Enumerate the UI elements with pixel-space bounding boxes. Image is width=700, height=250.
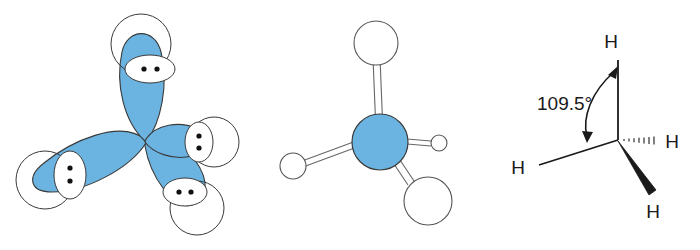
hydrogen-sphere-left xyxy=(280,153,306,179)
panel-ball-and-stick xyxy=(240,0,490,250)
electron-dot xyxy=(196,145,201,150)
electron-dot xyxy=(154,66,159,71)
hydrogen-sphere-bottom xyxy=(404,177,452,225)
electron-dot xyxy=(67,165,72,170)
carbon-sphere xyxy=(352,114,408,170)
hydrogen-sphere-lower-right-group xyxy=(163,178,224,235)
hydrogen-label-bottom: H xyxy=(646,201,660,222)
electron-pair-region-lower-right xyxy=(163,178,207,206)
panel-orbital-overlap xyxy=(0,0,240,250)
hydrogen-sphere-left-group xyxy=(16,151,86,209)
electron-pair-region-right xyxy=(185,122,213,162)
hydrogen-label-right: H xyxy=(665,131,679,152)
ball-and-stick-model xyxy=(240,0,490,250)
electron-dot xyxy=(67,178,72,183)
wedge-dash-structure: 109.5° H H H H xyxy=(490,0,700,250)
methane-bonding-figure: 109.5° H H H H xyxy=(0,0,700,250)
bond-wedge xyxy=(618,141,656,195)
arrow-head-bottom xyxy=(582,131,593,143)
electron-dot xyxy=(141,66,146,71)
electron-dot xyxy=(176,189,181,194)
electron-pair-region-left xyxy=(54,151,86,199)
sp3-orbital-overlap-diagram xyxy=(0,0,240,250)
hydrogen-label-left: H xyxy=(511,157,525,178)
electron-dot xyxy=(196,133,201,138)
panel-wedge-dash: 109.5° H H H H xyxy=(490,0,700,250)
bond-right-dash xyxy=(624,137,654,145)
bond-left xyxy=(539,140,618,165)
hydrogen-sphere-right-group xyxy=(185,117,239,167)
angle-label: 109.5° xyxy=(537,93,592,114)
hydrogen-sphere-right xyxy=(431,135,447,151)
electron-pair-region-up xyxy=(125,55,175,83)
hydrogen-label-top: H xyxy=(604,31,618,52)
hydrogen-sphere-top xyxy=(354,21,398,65)
electron-dot xyxy=(188,189,193,194)
